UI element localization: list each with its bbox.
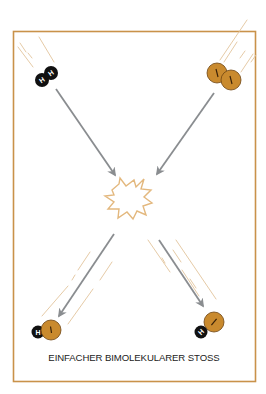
molecule-hi-right: H bbox=[195, 312, 225, 339]
hydrogen-atom: H bbox=[44, 66, 58, 80]
molecule-hi-left: H bbox=[32, 320, 62, 340]
molecule-h2: H H bbox=[35, 66, 58, 87]
iodine-atom bbox=[221, 70, 241, 90]
arrow-collision-to-hi-left bbox=[59, 234, 114, 316]
iodine-atom bbox=[204, 312, 224, 332]
arrow-collision-to-hi-right bbox=[159, 240, 203, 306]
speed-lines-h2 bbox=[18, 37, 54, 67]
speed-lines-hi-right bbox=[148, 240, 216, 299]
collision-burst-icon bbox=[105, 178, 152, 219]
iodine-atom bbox=[41, 320, 61, 340]
diagram-canvas: H H H bbox=[0, 0, 266, 394]
collision-diagram: H H H bbox=[0, 0, 266, 394]
molecule-i2 bbox=[207, 63, 241, 90]
arrow-h2-to-collision bbox=[56, 89, 115, 175]
svg-text:H: H bbox=[35, 329, 40, 336]
arrow-i2-to-collision bbox=[157, 93, 214, 174]
speed-lines-i2 bbox=[220, 20, 256, 72]
hydrogen-atom: H bbox=[195, 326, 208, 339]
diagram-caption: EINFACHER BIMOLEKULARER STOSS bbox=[13, 352, 255, 363]
